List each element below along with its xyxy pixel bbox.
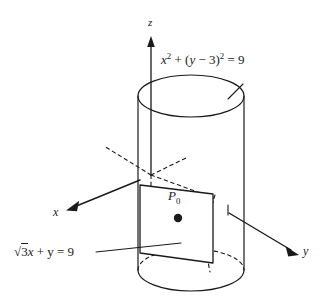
cylinder-eq-plus: + (: [171, 52, 189, 67]
point-p0-name: P: [168, 188, 176, 203]
cylinder-eq-minus3: − 3): [195, 52, 220, 67]
point-p0-label: P0: [168, 189, 180, 205]
label-cylinder-equation: x2 + (y − 3)2 = 9: [161, 52, 245, 66]
plane-eq-rest: + y = 9: [33, 244, 74, 259]
axis-x-label: x: [53, 206, 58, 218]
math-figure-cylinder-plane: [0, 0, 330, 305]
label-plane-equation: √3x + y = 9: [14, 245, 74, 258]
point-p0-subscript: 0: [176, 196, 180, 206]
figure-background: [0, 0, 330, 305]
axis-y-label: y: [303, 245, 308, 257]
axis-z-label: z: [148, 17, 152, 28]
cylinder-eq-equals: = 9: [224, 52, 244, 67]
point-p0-marker: [174, 214, 182, 222]
